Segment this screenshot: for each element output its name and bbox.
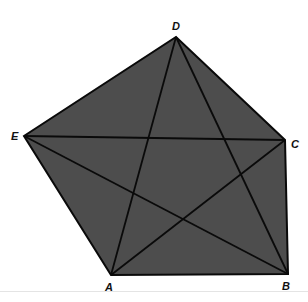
divider xyxy=(0,291,308,292)
vertex-label-e: E xyxy=(11,130,19,142)
pentagon-diagram: D E C A B xyxy=(0,0,308,302)
vertex-label-c: C xyxy=(291,138,300,150)
vertex-label-d: D xyxy=(172,20,180,32)
